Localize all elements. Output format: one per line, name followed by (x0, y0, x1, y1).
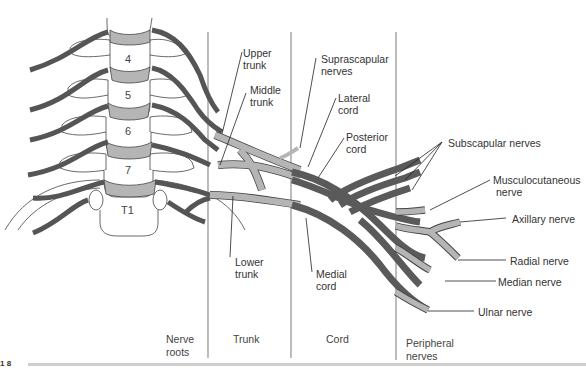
musculocutaneous-nerve-label: Musculocutaneous nerve (493, 174, 581, 198)
median-nerve-label: Median nerve (498, 276, 562, 288)
suprascapular-nerves-label: Suprascapular nerves (321, 53, 389, 77)
upper-trunk-label: Upper trunk (243, 47, 272, 71)
caption-bar (28, 363, 586, 366)
vertebra-c5-label: 5 (125, 89, 131, 101)
vertebra-t1-label: T1 (121, 204, 134, 216)
column-label-cord: Cord (326, 333, 349, 346)
figure-number: 1 8 (0, 359, 11, 368)
subscapular-nerves-label: Subscapular nerves (448, 137, 541, 149)
middle-trunk-label: Middle trunk (250, 84, 281, 108)
lower-trunk-label: Lower trunk (235, 256, 264, 280)
vertebra-c4-label: 4 (125, 53, 131, 65)
lateral-cord-label: Lateral cord (338, 92, 370, 116)
radial-nerve-label: Radial nerve (510, 255, 569, 267)
column-label-trunk: Trunk (233, 333, 259, 346)
axillary-nerve-label: Axillary nerve (512, 213, 575, 225)
column-label-nerve-roots: Nerve roots (166, 333, 194, 359)
vertebra-c7-label: 7 (125, 164, 131, 176)
column-label-peripheral-nerves: Peripheral nerves (406, 337, 454, 363)
posterior-cord-label: Posterior cord (346, 131, 388, 155)
medial-cord-label: Medial cord (316, 268, 347, 292)
vertebra-c6-label: 6 (125, 125, 131, 137)
cords (292, 160, 428, 310)
ulnar-nerve-label: Ulnar nerve (478, 306, 532, 318)
